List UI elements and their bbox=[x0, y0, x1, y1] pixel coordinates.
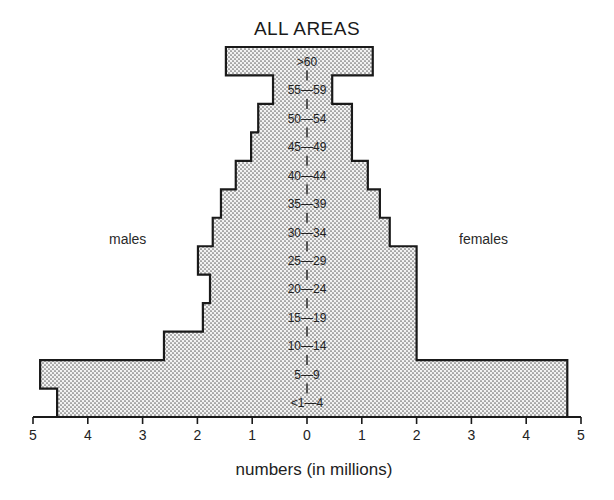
age-group-label: 10—14 bbox=[288, 339, 327, 353]
age-group-label: >60 bbox=[297, 55, 318, 69]
x-tick-label: 5 bbox=[29, 427, 37, 443]
x-tick-label: 5 bbox=[577, 427, 585, 443]
x-axis: 54321012345 bbox=[29, 417, 585, 443]
x-tick-label: 2 bbox=[413, 427, 421, 443]
age-group-label: 15—19 bbox=[288, 311, 327, 325]
age-group-label: 5—9 bbox=[294, 368, 320, 382]
age-group-label: 45—49 bbox=[288, 140, 327, 154]
x-tick-label: 1 bbox=[248, 427, 256, 443]
x-tick-label: 2 bbox=[194, 427, 202, 443]
age-group-label: 55—59 bbox=[288, 83, 327, 97]
x-tick-label: 0 bbox=[303, 427, 311, 443]
age-group-label: 20—24 bbox=[288, 282, 327, 296]
x-axis-title: numbers (in millions) bbox=[236, 460, 393, 479]
females-label: females bbox=[459, 231, 508, 247]
age-group-label: 40—44 bbox=[288, 169, 327, 183]
age-group-label: 50—54 bbox=[288, 112, 327, 126]
age-group-label: 35—39 bbox=[288, 197, 327, 211]
x-tick-label: 3 bbox=[139, 427, 147, 443]
age-group-label: 30—34 bbox=[288, 226, 327, 240]
x-tick-label: 3 bbox=[468, 427, 476, 443]
population-pyramid-chart: ALL AREAS >6055—5950—5445—4940—4435—3930… bbox=[0, 0, 614, 500]
males-label: males bbox=[109, 231, 146, 247]
chart-title: ALL AREAS bbox=[254, 18, 360, 39]
x-tick-label: 4 bbox=[84, 427, 92, 443]
chart-canvas: ALL AREAS >6055—5950—5445—4940—4435—3930… bbox=[0, 0, 614, 500]
age-group-label: 25—29 bbox=[288, 254, 327, 268]
x-tick-label: 4 bbox=[522, 427, 530, 443]
x-tick-label: 1 bbox=[358, 427, 366, 443]
age-group-label: <1—4 bbox=[291, 396, 324, 410]
